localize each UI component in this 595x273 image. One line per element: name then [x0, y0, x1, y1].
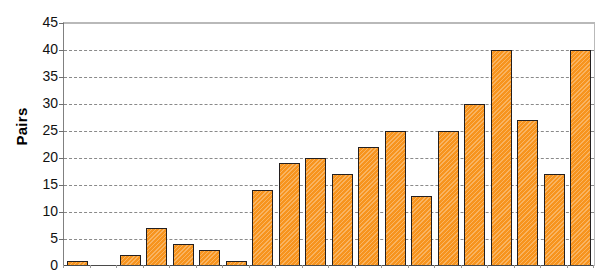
bar-slot — [541, 23, 568, 266]
bar-slot — [276, 23, 303, 266]
bar-slot — [64, 23, 91, 266]
bar-slot — [170, 23, 197, 266]
y-tick-label-25: 25 — [22, 122, 58, 138]
x-tick-mark — [222, 265, 223, 268]
x-tick-mark — [302, 265, 303, 268]
bar-slot — [117, 23, 144, 266]
x-tick-mark — [381, 265, 382, 268]
bar-slot — [223, 23, 250, 266]
y-tick-label-0: 0 — [22, 257, 58, 273]
x-tick-mark — [567, 265, 568, 268]
bar[interactable] — [438, 131, 459, 266]
bar-slot — [329, 23, 356, 266]
x-tick-mark — [169, 265, 170, 268]
x-tick-mark — [116, 265, 117, 268]
x-tick-mark — [196, 265, 197, 268]
bar-slot — [488, 23, 515, 266]
bar[interactable] — [385, 131, 406, 266]
x-tick-mark — [249, 265, 250, 268]
bar-slot — [568, 23, 595, 266]
bar[interactable] — [358, 147, 379, 266]
bar[interactable] — [411, 196, 432, 266]
bar[interactable] — [544, 174, 565, 266]
bar[interactable] — [252, 190, 273, 266]
y-tick-label-20: 20 — [22, 149, 58, 165]
bar-slot — [91, 23, 118, 266]
y-tick-label-30: 30 — [22, 95, 58, 111]
x-axis-ticks — [63, 265, 593, 269]
bar-slot — [303, 23, 330, 266]
y-tick-label-35: 35 — [22, 68, 58, 84]
x-tick-mark — [593, 265, 594, 268]
x-tick-mark — [328, 265, 329, 268]
y-tick-label-45: 45 — [22, 14, 58, 30]
bar-slot — [435, 23, 462, 266]
y-tick-label-5: 5 — [22, 230, 58, 246]
bar[interactable] — [199, 250, 220, 266]
bar-slot — [356, 23, 383, 266]
bar-slot — [144, 23, 171, 266]
bar[interactable] — [146, 228, 167, 266]
bar[interactable] — [491, 50, 512, 266]
bar[interactable] — [173, 244, 194, 266]
y-axis-tick-labels: 454035302520151050 — [20, 22, 58, 265]
x-tick-mark — [63, 265, 64, 268]
bar-slot — [250, 23, 277, 266]
y-tick-label-15: 15 — [22, 176, 58, 192]
bar-slot — [197, 23, 224, 266]
bar[interactable] — [517, 120, 538, 266]
bar[interactable] — [332, 174, 353, 266]
bar[interactable] — [464, 104, 485, 266]
x-tick-mark — [514, 265, 515, 268]
y-tick-label-10: 10 — [22, 203, 58, 219]
x-tick-mark — [434, 265, 435, 268]
x-tick-mark — [355, 265, 356, 268]
x-tick-mark — [461, 265, 462, 268]
bar[interactable] — [305, 158, 326, 266]
bar[interactable] — [279, 163, 300, 266]
x-tick-mark — [540, 265, 541, 268]
bar[interactable] — [570, 50, 591, 266]
bar-slot — [382, 23, 409, 266]
bars-layer — [64, 23, 594, 266]
x-tick-mark — [90, 265, 91, 268]
y-tick-label-40: 40 — [22, 41, 58, 57]
x-tick-mark — [275, 265, 276, 268]
x-tick-mark — [487, 265, 488, 268]
x-tick-mark — [408, 265, 409, 268]
bar-slot — [515, 23, 542, 266]
bar-slot — [409, 23, 436, 266]
bar-slot — [462, 23, 489, 266]
x-tick-mark — [143, 265, 144, 268]
plot-area — [63, 22, 595, 266]
